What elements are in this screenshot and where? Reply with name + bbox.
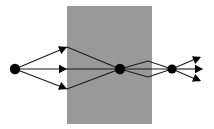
ray-diagram-canvas	[0, 0, 214, 129]
source-point	[10, 64, 20, 74]
ray-diagram-svg	[0, 0, 214, 129]
focus-point-right	[167, 64, 176, 73]
focus-point-center	[115, 64, 125, 74]
